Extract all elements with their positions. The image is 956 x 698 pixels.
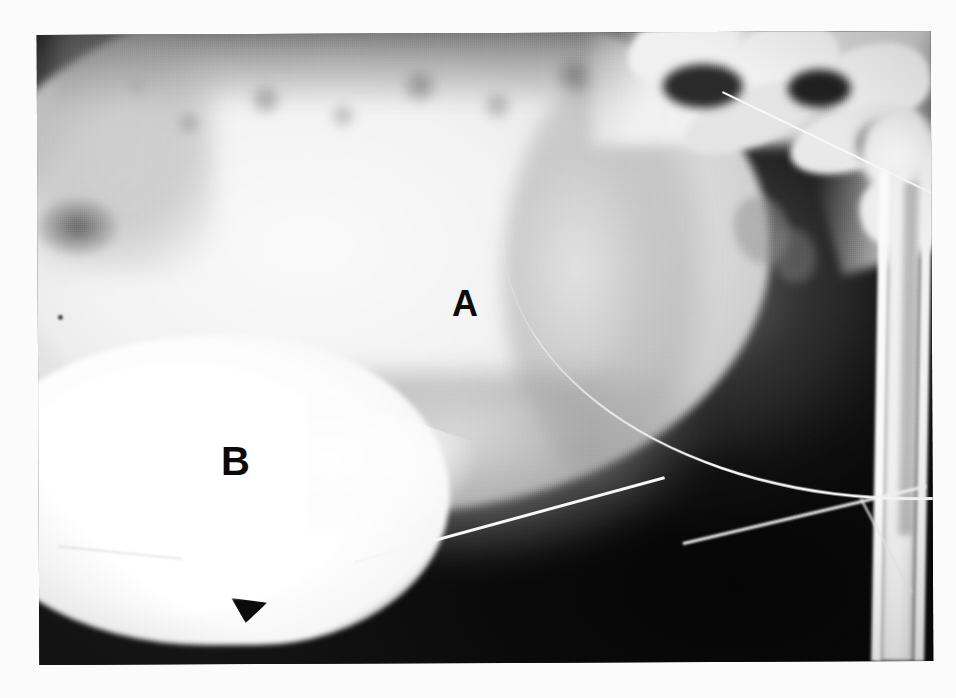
annotation-label-a: A: [452, 286, 478, 322]
figure-root: A B: [0, 0, 956, 698]
radiograph-image: [37, 31, 934, 665]
annotation-label-b: B: [221, 441, 250, 481]
catheter-curve: [502, 207, 933, 499]
intervertebral-space-1: [663, 63, 744, 107]
intervertebral-space-2: [788, 69, 851, 107]
